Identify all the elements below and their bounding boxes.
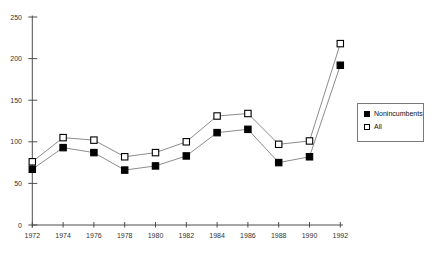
open-square-marker (60, 134, 66, 140)
filled-square-marker (245, 126, 251, 132)
y-tick-label: 0 (18, 222, 22, 229)
x-tick-label: 1992 (333, 232, 349, 239)
filled-square-marker (29, 166, 35, 172)
filled-square-marker (214, 129, 220, 135)
open-square-marker (337, 40, 343, 46)
x-tick-label: 1982 (179, 232, 195, 239)
filled-square-marker (60, 144, 66, 150)
y-axis-ticks: 050100150200250 (10, 14, 37, 229)
open-square-marker (183, 139, 189, 145)
filled-square-marker (183, 153, 189, 159)
legend-label-all: All (374, 123, 382, 131)
series-markers-nonincumbents (29, 62, 343, 173)
filled-square-marker (91, 149, 97, 155)
y-tick-label: 200 (10, 55, 22, 62)
legend-label-nonincumbents: Nonincumbents (374, 110, 423, 118)
filled-square-marker (337, 62, 343, 68)
open-square-marker (122, 154, 128, 160)
y-tick-label: 100 (10, 138, 22, 145)
x-tick-label: 1988 (271, 232, 287, 239)
y-tick-label: 250 (10, 14, 22, 21)
legend-item-nonincumbents: Nonincumbents (364, 110, 420, 118)
x-tick-label: 1974 (55, 232, 71, 239)
open-square-marker (245, 110, 251, 116)
x-tick-label: 1976 (86, 232, 102, 239)
open-square-marker (276, 141, 282, 147)
x-tick-label: 1980 (148, 232, 164, 239)
open-square-marker (152, 149, 158, 155)
x-tick-label: 1972 (25, 232, 41, 239)
series-markers-all (29, 40, 343, 165)
x-tick-label: 1978 (117, 232, 133, 239)
legend-item-all: All (364, 123, 420, 131)
filled-square-marker (306, 154, 312, 160)
x-tick-label: 1986 (240, 232, 256, 239)
open-square-icon (364, 124, 370, 130)
filled-square-marker (122, 167, 128, 173)
x-tick-label: 1990 (302, 232, 318, 239)
filled-square-icon (364, 111, 370, 117)
open-square-marker (91, 137, 97, 143)
axes (32, 16, 343, 228)
legend: Nonincumbents All (357, 103, 424, 142)
y-tick-label: 50 (14, 180, 22, 187)
x-tick-label: 1984 (209, 232, 225, 239)
filled-square-marker (152, 163, 158, 169)
open-square-marker (29, 159, 35, 165)
filled-square-marker (276, 159, 282, 165)
open-square-marker (214, 113, 220, 119)
open-square-marker (306, 138, 312, 144)
chart-page: 0501001502002501972197419761978198019821… (0, 0, 433, 256)
y-tick-label: 150 (10, 97, 22, 104)
